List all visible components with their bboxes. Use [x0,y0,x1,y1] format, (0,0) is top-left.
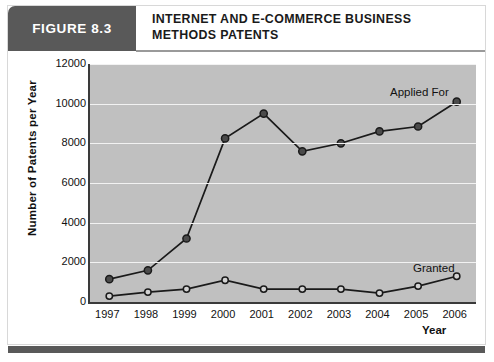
gridline [90,143,476,144]
caption-sliver [14,356,480,362]
y-axis-tick: 6000 [36,176,86,188]
figure-title: INTERNET AND E-COMMERCE BUSINESS METHODS… [136,6,485,51]
data-point [415,123,422,130]
x-axis-tick: 2002 [278,308,322,320]
x-axis-tick: 2003 [317,308,361,320]
x-axis-tick: 2000 [201,308,245,320]
y-axis-tick-labels: 020004000600080001000012000 [34,52,86,344]
data-point [260,110,267,117]
gridline [90,223,476,224]
y-axis-tick: 12000 [36,57,86,69]
x-axis-tick: 1999 [163,308,207,320]
data-point [222,135,229,142]
gridline [90,183,476,184]
data-point [144,267,151,274]
x-axis-label: Year [422,324,446,336]
data-point [222,277,228,283]
y-axis-tick: 8000 [36,136,86,148]
chart-container: Number of Patents per Year 0200040006000… [8,52,485,344]
figure-card: FIGURE 8.3 INTERNET AND E-COMMERCE BUSIN… [0,0,494,362]
y-axis-tick: 4000 [36,216,86,228]
series-label-granted: Granted [413,262,455,274]
data-point [106,293,112,299]
data-point [338,286,344,292]
y-axis-tick: 10000 [36,97,86,109]
data-point [376,128,383,135]
y-axis-tick: 2000 [36,255,86,267]
gridline [90,104,476,105]
x-axis-tick: 1997 [85,308,129,320]
series-line-applied-for [109,102,456,280]
x-axis-tick: 2001 [240,308,284,320]
x-axis-tick: 2006 [433,308,477,320]
x-axis-tick: 1998 [124,308,168,320]
data-point [106,276,113,283]
data-point [376,290,382,296]
x-axis-tick: 2004 [356,308,400,320]
data-point [183,235,190,242]
figure-bottom-bar [8,346,485,353]
figure-number-tag: FIGURE 8.3 [8,6,136,51]
data-point [261,286,267,292]
data-point [183,286,189,292]
plot-area: Applied For Granted [88,64,476,304]
y-axis-tick: 0 [36,295,86,307]
gridline [90,262,476,263]
figure-header: FIGURE 8.3 INTERNET AND E-COMMERCE BUSIN… [8,6,485,51]
data-point [145,289,151,295]
gridline [90,64,476,65]
series-line-granted [109,276,456,296]
data-point [415,283,421,289]
series-label-applied-for: Applied For [390,86,449,98]
x-axis-tick: 2005 [394,308,438,320]
data-point [299,286,305,292]
data-point [299,148,306,155]
